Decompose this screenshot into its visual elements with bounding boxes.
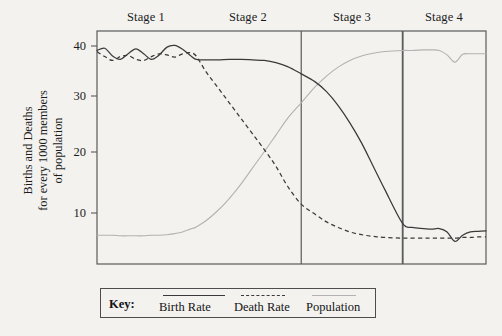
plot-canvas [0, 0, 502, 336]
y-tick-marks [91, 46, 97, 213]
stage-divider-lines [301, 31, 403, 264]
key-title: Key: [109, 297, 135, 312]
population-line [97, 50, 486, 236]
key-swatch-death-rate [241, 295, 285, 296]
key-legend-box: Key: Birth Rate Death Rate Population [100, 288, 376, 318]
key-swatch-population [312, 295, 356, 296]
key-label-birth-rate: Birth Rate [159, 300, 211, 315]
death-rate-line [97, 52, 486, 239]
series-lines [97, 45, 486, 241]
key-swatch-birth-rate [163, 295, 225, 296]
key-label-population: Population [306, 300, 360, 315]
demographic-transition-chart: Births and Deaths for every 1000 members… [0, 0, 502, 336]
key-label-death-rate: Death Rate [234, 300, 290, 315]
birth-rate-line [97, 45, 486, 241]
